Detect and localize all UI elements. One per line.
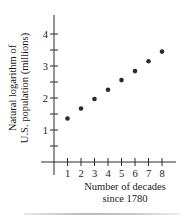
x-tick-label: 2	[78, 168, 83, 179]
data-point	[106, 87, 111, 92]
data-point	[92, 97, 97, 102]
data-points	[65, 49, 164, 120]
y-tick-label: 2	[43, 93, 48, 104]
scatter-chart: 1234 12345678 Natural logarithm of U.S. …	[0, 0, 186, 216]
data-point	[65, 116, 70, 121]
x-tick-label: 8	[159, 168, 164, 179]
x-tick-label: 4	[105, 168, 111, 179]
x-axis-label-line-2: since 1780	[70, 193, 180, 205]
x-tick-label: 6	[132, 168, 137, 179]
y-tick-label: 4	[43, 29, 49, 40]
x-axis-label: Number of decades since 1780	[70, 181, 180, 205]
y-tick-label: 3	[43, 61, 48, 72]
y-axis-label-line-1: Natural logarithm of	[7, 33, 19, 143]
data-point	[119, 78, 124, 83]
x-tick-label: 7	[146, 168, 151, 179]
y-tick-label: 1	[43, 125, 48, 136]
bottom-divider	[24, 213, 180, 215]
data-point	[133, 69, 138, 74]
y-axis-label-line-2: U.S. population (millions)	[19, 33, 31, 143]
data-point	[146, 59, 151, 64]
y-ticks: 1234	[43, 29, 58, 147]
data-point	[79, 106, 84, 111]
x-tick-label: 5	[119, 168, 124, 179]
data-point	[160, 49, 165, 54]
x-tick-label: 1	[65, 168, 70, 179]
x-axis-label-line-1: Number of decades	[70, 181, 180, 193]
x-ticks: 12345678	[65, 158, 165, 179]
x-tick-label: 3	[92, 168, 97, 179]
